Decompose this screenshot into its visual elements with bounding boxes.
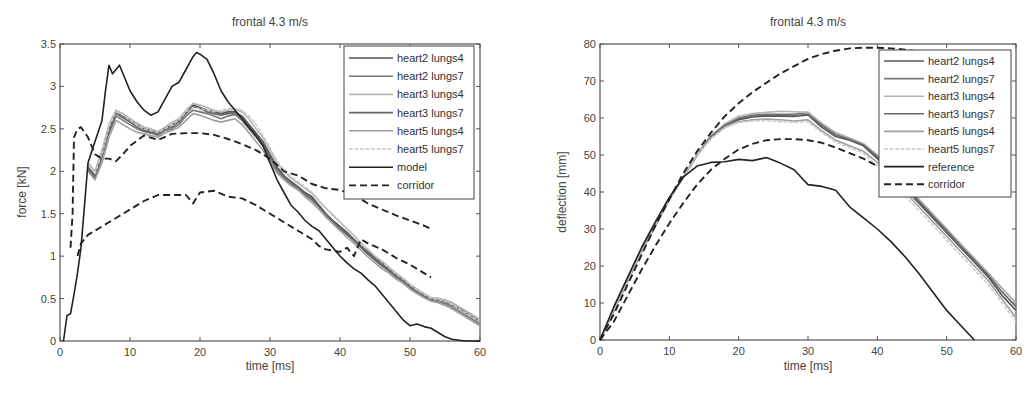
force-ylabel: force [kN] (15, 166, 29, 217)
force-xlabel: time [ms] (246, 359, 295, 373)
force-ytick-label: 1.5 (41, 208, 56, 220)
deflection-legend-label-reference: reference (928, 161, 974, 173)
force-ytick-label: 2.5 (41, 123, 56, 135)
force-legend-box (344, 46, 474, 199)
deflection-legend-label-corridor: corridor (928, 178, 966, 190)
deflection-legend-label-heart2-lungs7: heart2 lungs7 (928, 73, 995, 85)
deflection-ytick-label: 60 (584, 112, 596, 124)
deflection-xtick-label: 40 (871, 345, 883, 357)
deflection-xtick-label: 60 (1010, 345, 1022, 357)
force-ytick-label: 0.5 (41, 293, 56, 305)
deflection-ytick-label: 10 (584, 297, 596, 309)
deflection-legend-label-heart3-lungs4: heart3 lungs4 (928, 90, 995, 102)
deflection-xlabel: time [ms] (784, 359, 833, 373)
deflection-xtick-label: 30 (802, 345, 814, 357)
force-ytick-label: 3 (50, 80, 56, 92)
deflection-legend-label-heart5-lungs4: heart5 lungs4 (928, 125, 995, 137)
force-legend-label-heart2-lungs4: heart2 lungs4 (397, 52, 464, 64)
force-xtick-label: 50 (404, 346, 416, 358)
deflection-chart: frontal 4.3 m/s 010203040506001020304050… (555, 15, 1022, 373)
deflection-ytick-label: 80 (584, 38, 596, 50)
force-xtick-label: 40 (334, 346, 346, 358)
force-xtick-label: 20 (194, 346, 206, 358)
deflection-ytick-label: 20 (584, 260, 596, 272)
deflection-legend: heart2 lungs4heart2 lungs7heart3 lungs4h… (879, 50, 1011, 197)
deflection-xtick-label: 10 (663, 345, 675, 357)
deflection-legend-label-heart3-lungs7: heart3 lungs7 (928, 108, 995, 120)
force-xtick-label: 0 (57, 346, 63, 358)
force-ytick-label: 0 (50, 335, 56, 347)
force-legend-label-heart3-lungs7: heart3 lungs7 (397, 107, 464, 119)
deflection-chart-title: frontal 4.3 m/s (770, 15, 846, 29)
deflection-ytick-label: 70 (584, 75, 596, 87)
force-chart: frontal 4.3 m/s 010203040506000.511.522.… (15, 15, 486, 373)
deflection-xtick-label: 50 (941, 345, 953, 357)
force-legend-label-heart3-lungs4: heart3 lungs4 (397, 88, 464, 100)
force-ytick-label: 3.5 (41, 38, 56, 50)
deflection-ytick-label: 40 (584, 186, 596, 198)
force-ytick-label: 1 (50, 250, 56, 262)
force-legend-label-heart2-lungs7: heart2 lungs7 (397, 70, 464, 82)
force-legend-label-corridor: corridor (397, 179, 435, 191)
force-legend-label-heart5-lungs7: heart5 lungs7 (397, 143, 464, 155)
figure: frontal 4.3 m/s 010203040506000.511.522.… (0, 0, 1029, 393)
deflection-series-corridor (600, 48, 919, 340)
force-legend-label-model: model (397, 161, 427, 173)
deflection-legend-label-heart2-lungs4: heart2 lungs4 (928, 55, 995, 67)
deflection-legend-label-heart5-lungs7: heart5 lungs7 (928, 143, 995, 155)
deflection-ytick-label: 0 (590, 334, 596, 346)
force-xtick-label: 30 (264, 346, 276, 358)
force-ytick-label: 2 (50, 165, 56, 177)
deflection-ylabel: deflection [mm] (555, 151, 569, 232)
force-legend: heart2 lungs4heart2 lungs7heart3 lungs4h… (344, 46, 474, 199)
force-chart-title: frontal 4.3 m/s (232, 15, 308, 29)
force-xtick-label: 10 (124, 346, 136, 358)
deflection-series-corridor-lower (600, 139, 877, 340)
force-xtick-label: 60 (474, 346, 486, 358)
deflection-ytick-label: 30 (584, 223, 596, 235)
deflection-ytick-label: 50 (584, 149, 596, 161)
deflection-xtick-label: 0 (597, 345, 603, 357)
deflection-xtick-label: 20 (733, 345, 745, 357)
force-legend-label-heart5-lungs4: heart5 lungs4 (397, 125, 464, 137)
